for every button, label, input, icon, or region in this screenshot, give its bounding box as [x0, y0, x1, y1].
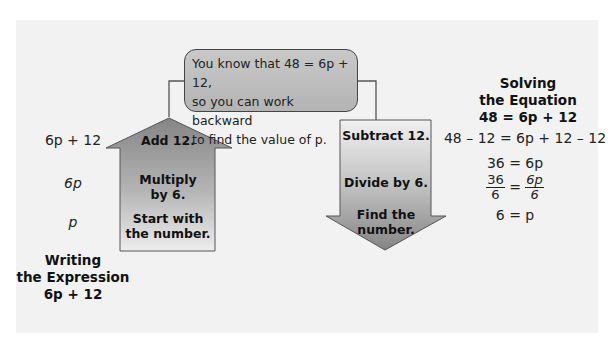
down-step-subtract: Subtract 12. [336, 128, 436, 143]
expression-step-2: 6p [28, 175, 118, 191]
callout-line: so you can work backward [192, 92, 350, 130]
solving-heading: Solving the Equation 48 = 6p + 12 [468, 75, 588, 126]
solve-step-2: 36 = 6p [470, 155, 560, 171]
up-step-add: Add 12. [120, 133, 216, 148]
expression-step-3: p [28, 214, 118, 230]
expression-step-1: 6p + 12 [28, 132, 118, 148]
down-step-divide: Divide by 6. [336, 175, 436, 190]
up-step-start: Start with the number. [120, 211, 216, 241]
connector-right [358, 81, 376, 120]
connector-left [169, 81, 184, 117]
callout-line: You know that 48 = 6p + 12, [192, 54, 350, 92]
solve-step-4: 6 = p [470, 207, 560, 223]
callout-box: You know that 48 = 6p + 12, so you can w… [184, 49, 358, 112]
solve-step-3-fraction: 366 = 6p6 [470, 173, 560, 202]
down-step-find: Find the number. [336, 207, 436, 237]
solve-step-1: 48 – 12 = 6p + 12 – 12 [440, 130, 610, 146]
up-step-multiply: Multiply by 6. [120, 172, 216, 202]
fraction-left: 366 [486, 173, 505, 202]
fraction-right: 6p6 [525, 173, 544, 202]
writing-heading: Writing the Expression 6p + 12 [8, 252, 138, 303]
